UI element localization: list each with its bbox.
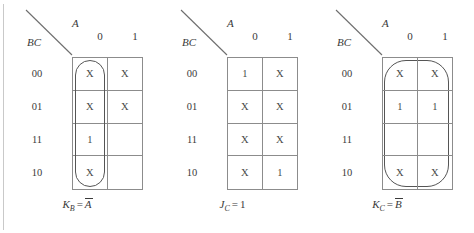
caption-equals: = (232, 198, 238, 210)
caption-lhs-subscript: C (224, 204, 229, 213)
column-variable-label: A (72, 17, 79, 29)
caption-rhs: B (395, 198, 403, 211)
kmap-row (383, 124, 452, 157)
column-label-1: 1 (126, 30, 144, 42)
kmap-grid: 1 X X X X X X 1 (227, 57, 298, 190)
kmap-cell[interactable]: X (73, 91, 108, 123)
kmap-header: A BC 0 1 (24, 8, 144, 57)
kmap-caption: KB=A (0, 198, 155, 213)
kmap-cell[interactable] (418, 124, 453, 156)
row-label-00: 00 (26, 57, 48, 90)
kmap-row: X (73, 156, 142, 189)
kmap-cell[interactable]: X (228, 124, 263, 156)
kmap-cell[interactable]: X (263, 91, 298, 123)
kmap-cell[interactable]: X (383, 156, 418, 189)
row-label-11: 11 (336, 123, 358, 156)
kmap-row: 1 X (228, 58, 297, 91)
row-label-10: 10 (181, 156, 203, 189)
kmap-row: X X (73, 58, 142, 91)
kmap-grid: X X X X 1 X (72, 57, 143, 190)
column-label-0: 0 (401, 30, 419, 42)
kmap-kc: A BC 0 1 00 01 11 10 X X 1 1 X X KC=B (310, 0, 465, 233)
kmap-jc: A BC 0 1 00 01 11 10 1 X X X X X X 1 JC=… (155, 0, 310, 233)
kmap-cell[interactable]: 1 (228, 58, 263, 90)
kmap-cell[interactable]: X (418, 58, 453, 90)
kmap-row: 1 (73, 124, 142, 157)
column-variable-label: A (227, 17, 234, 29)
kmap-cell[interactable]: X (108, 91, 143, 123)
kmap-cell[interactable]: X (228, 91, 263, 123)
kmap-cell[interactable]: X (263, 124, 298, 156)
kmap-row: X X (73, 91, 142, 124)
caption-equals: = (77, 198, 83, 210)
caption-rhs: 1 (240, 198, 246, 210)
caption-equals: = (387, 198, 393, 210)
column-label-0: 0 (91, 30, 109, 42)
caption-rhs: A (85, 198, 93, 211)
kmap-row: X X (228, 124, 297, 157)
kmap-cell[interactable]: X (73, 156, 108, 189)
kmap-header: A BC 0 1 (179, 8, 299, 57)
row-label-11: 11 (26, 123, 48, 156)
kmap-cell[interactable]: 1 (73, 124, 108, 156)
row-label-00: 00 (336, 57, 358, 90)
kmap-cell[interactable] (108, 156, 143, 189)
row-label-01: 01 (26, 90, 48, 123)
kmap-cell[interactable]: X (263, 58, 298, 90)
kmap-row: X X (228, 91, 297, 124)
kmap-kb: A BC 0 1 00 01 11 10 X X X X 1 X KB=A (0, 0, 155, 233)
kmap-cell[interactable]: 1 (418, 91, 453, 123)
kmap-grid: X X 1 1 X X (382, 57, 453, 190)
kmap-row: 1 1 (383, 91, 452, 124)
kmap-cell[interactable] (108, 124, 143, 156)
kmap-cell[interactable]: 1 (383, 91, 418, 123)
row-label-00: 00 (181, 57, 203, 90)
caption-lhs: K (372, 198, 379, 210)
kmap-cell[interactable] (383, 124, 418, 156)
kmap-caption: KC=B (310, 198, 465, 213)
kmap-cell[interactable]: X (228, 156, 263, 189)
row-label-11: 11 (181, 123, 203, 156)
kmap-cell[interactable]: X (418, 156, 453, 189)
kmap-cell[interactable]: X (73, 58, 108, 90)
row-label-10: 10 (336, 156, 358, 189)
column-label-1: 1 (281, 30, 299, 42)
kmap-row: X 1 (228, 156, 297, 189)
kmap-caption: JC=1 (155, 198, 310, 213)
kmap-cell[interactable]: X (383, 58, 418, 90)
caption-lhs-subscript: C (380, 204, 385, 213)
row-variable-label: BC (182, 36, 196, 48)
kmap-row: X X (383, 58, 452, 91)
row-label-01: 01 (181, 90, 203, 123)
caption-lhs-subscript: B (70, 204, 75, 213)
caption-lhs: K (62, 198, 69, 210)
kmap-cell[interactable]: 1 (263, 156, 298, 189)
row-variable-label: BC (337, 36, 351, 48)
row-variable-label: BC (27, 36, 41, 48)
column-label-1: 1 (436, 30, 454, 42)
row-label-10: 10 (26, 156, 48, 189)
column-variable-label: A (382, 17, 389, 29)
kmap-cell[interactable]: X (108, 58, 143, 90)
kmap-row: X X (383, 156, 452, 189)
kmap-header: A BC 0 1 (334, 8, 454, 57)
column-label-0: 0 (246, 30, 264, 42)
row-label-01: 01 (336, 90, 358, 123)
